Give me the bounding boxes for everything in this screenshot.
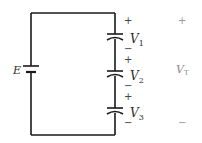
battery-icon [23,66,39,72]
capacitor-2-minus: − [124,80,132,91]
capacitor-3-minus: − [124,117,132,128]
capacitor-1-minus: − [124,43,132,54]
capacitor-1-plus: + [124,15,132,26]
total-minus: − [178,117,186,128]
circuit-diagram: E + V1 − + V2 − + V3 − + VT − [0,0,202,143]
source-label: E [12,64,21,77]
capacitor-2-plus: + [124,54,132,65]
total-voltage-label: VT [176,63,189,77]
total-plus: + [178,15,186,26]
capacitor-3-plus: + [124,91,132,102]
